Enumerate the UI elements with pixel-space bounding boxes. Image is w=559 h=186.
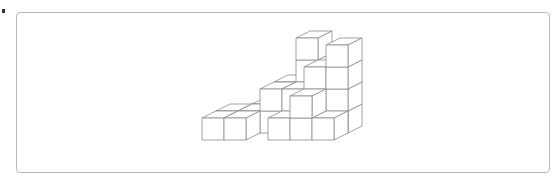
cube-front-face: [260, 89, 282, 111]
cube-front-face: [296, 38, 318, 60]
cube-stack-figure: [0, 0, 559, 186]
cube-front-face: [224, 118, 246, 140]
cube-front-face: [202, 118, 224, 140]
cube-front-face: [326, 67, 348, 89]
cube-front-face: [326, 45, 348, 67]
cube: [290, 89, 326, 118]
cube-front-face: [290, 96, 312, 118]
cube: [326, 38, 362, 67]
cube-front-face: [326, 89, 348, 111]
cube: [224, 111, 260, 140]
cube-front-face: [312, 118, 334, 140]
cube-front-face: [290, 118, 312, 140]
cube-front-face: [304, 67, 326, 89]
cube-front-face: [268, 118, 290, 140]
